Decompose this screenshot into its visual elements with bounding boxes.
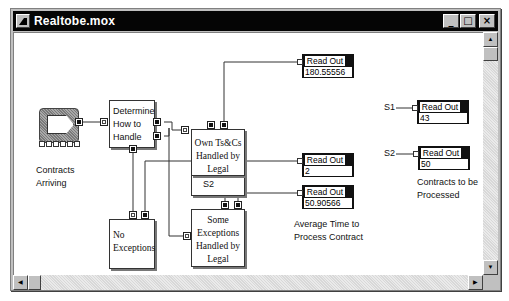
own-tcs-input-port[interactable]: [181, 126, 189, 134]
some-exceptions-output-port[interactable]: [234, 201, 242, 209]
determine-output-port-3[interactable]: [129, 145, 137, 153]
readout-some-exceptions-time[interactable]: Read Out 50.90566: [302, 185, 354, 209]
readout-s1-count[interactable]: Read Out 43: [417, 100, 469, 124]
average-time-label: Average Time to Process Contract: [294, 218, 363, 244]
scroll-left-button[interactable]: ◀: [13, 275, 28, 290]
some-exceptions-signal-port[interactable]: [221, 201, 229, 209]
close-button[interactable]: ×: [479, 14, 495, 28]
determine-input-port[interactable]: [100, 118, 108, 126]
model-canvas[interactable]: Contracts Arriving Determine How to Hand…: [13, 32, 483, 275]
s2-signal-label: S2: [203, 178, 214, 191]
readout-input-port[interactable]: [297, 190, 303, 196]
some-exceptions-block[interactable]: Some Exceptions Handled by Legal: [191, 209, 245, 267]
no-exceptions-block[interactable]: No Exceptions: [109, 219, 155, 269]
s2-readout-signal-label: S2: [384, 147, 395, 160]
readout-input-port[interactable]: [297, 158, 303, 164]
determine-output-port-2[interactable]: [153, 132, 161, 140]
determine-block[interactable]: Determine How to Handle: [109, 100, 155, 148]
scroll-down-button[interactable]: ▼: [483, 260, 498, 275]
window-title: Realtobe.mox: [34, 14, 115, 28]
own-tcs-output-port[interactable]: [220, 121, 228, 129]
readout-input-port[interactable]: [413, 151, 419, 157]
minimize-button[interactable]: _: [443, 14, 459, 28]
determine-output-port-1[interactable]: [153, 118, 161, 126]
readout-input-port[interactable]: [297, 59, 303, 65]
no-exceptions-output-port[interactable]: [141, 211, 149, 219]
contracts-generator-block[interactable]: [39, 108, 79, 143]
scrollbar-corner: [483, 275, 498, 290]
scroll-right-button[interactable]: ▶: [468, 275, 483, 290]
own-tcs-signal-port[interactable]: [207, 121, 215, 129]
generator-output-port[interactable]: [75, 118, 83, 126]
no-exceptions-input-port[interactable]: [129, 211, 137, 219]
title-bar[interactable]: Realtobe.mox _ □ ×: [13, 11, 498, 31]
maximize-button[interactable]: □: [460, 14, 476, 28]
readout-own-tcs-time[interactable]: Read Out 180.55556: [302, 54, 354, 78]
generator-pins: [39, 141, 80, 147]
contracts-to-process-label: Contracts to be Processed: [417, 176, 478, 202]
scroll-up-button[interactable]: ▲: [483, 32, 498, 47]
generator-label: Contracts Arriving: [36, 164, 75, 190]
readout-s2-count[interactable]: Read Out 50: [418, 146, 470, 170]
vertical-scrollbar[interactable]: [483, 32, 498, 275]
model-window: Realtobe.mox _ □ ×: [10, 8, 501, 291]
generator-arrow-icon: [47, 115, 74, 134]
horizontal-scrollbar[interactable]: [13, 275, 483, 290]
horizontal-scroll-thumb[interactable]: [28, 275, 41, 290]
s1-readout-signal-label: S1: [384, 101, 395, 114]
readout-no-exceptions[interactable]: Read Out 2: [302, 153, 354, 177]
some-exceptions-input-port[interactable]: [183, 232, 191, 240]
vertical-scroll-thumb[interactable]: [483, 47, 498, 61]
system-menu-icon[interactable]: [16, 14, 30, 28]
own-tcs-block-body[interactable]: Own Ts&Cs Handled by Legal: [191, 129, 245, 176]
readout-input-port[interactable]: [412, 105, 418, 111]
